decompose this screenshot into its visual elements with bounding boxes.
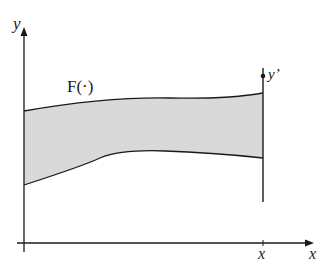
y-prime-label: y’	[268, 67, 280, 82]
diagram-canvas	[0, 0, 336, 271]
y-axis-label: y	[13, 15, 21, 32]
function-label: F(·)	[67, 78, 93, 95]
y-prime-point-icon	[261, 74, 266, 79]
shaded-region-F	[24, 93, 263, 185]
x-tick-label: x	[258, 246, 265, 262]
y-axis-arrowhead-icon	[21, 27, 28, 36]
x-axis-label: x	[309, 246, 316, 262]
